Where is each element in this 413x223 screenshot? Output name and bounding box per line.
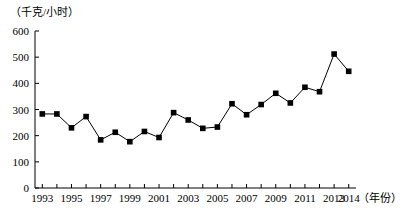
line-chart-figure: （千克/小时） 0100200300400500600 199319951997… bbox=[0, 0, 413, 223]
svg-text:1993: 1993 bbox=[31, 192, 54, 204]
svg-text:2003: 2003 bbox=[177, 192, 200, 204]
svg-text:2009: 2009 bbox=[265, 192, 288, 204]
svg-text:2014: 2014 bbox=[338, 192, 361, 204]
svg-text:1995: 1995 bbox=[60, 192, 83, 204]
svg-text:100: 100 bbox=[13, 156, 30, 168]
svg-text:2001: 2001 bbox=[148, 192, 170, 204]
data-point-markers bbox=[40, 51, 352, 144]
svg-text:1999: 1999 bbox=[119, 192, 142, 204]
x-axis-unit-label: （年份） bbox=[358, 192, 402, 205]
svg-text:2005: 2005 bbox=[206, 192, 229, 204]
svg-text:600: 600 bbox=[13, 25, 30, 37]
data-line-series bbox=[42, 54, 348, 142]
svg-text:1997: 1997 bbox=[90, 192, 113, 204]
svg-text:500: 500 bbox=[13, 51, 30, 63]
chart-axes bbox=[35, 31, 356, 188]
svg-text:300: 300 bbox=[13, 104, 30, 116]
svg-text:400: 400 bbox=[13, 77, 30, 89]
y-axis-tick-labels: 0100200300400500600 bbox=[13, 25, 30, 194]
plot-area: 0100200300400500600 19931995199719992001… bbox=[0, 0, 413, 223]
svg-text:2007: 2007 bbox=[236, 192, 259, 204]
svg-text:0: 0 bbox=[24, 182, 30, 194]
x-axis-tick-labels: 1993199519971999200120032005200720092011… bbox=[31, 192, 360, 204]
svg-text:200: 200 bbox=[13, 130, 30, 142]
svg-text:2011: 2011 bbox=[294, 192, 316, 204]
